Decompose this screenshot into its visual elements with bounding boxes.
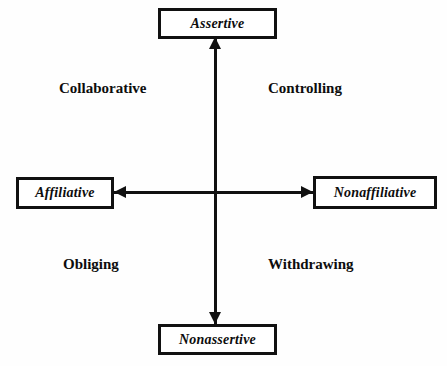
quadrant-label-bottom-right: Withdrawing — [268, 256, 354, 273]
node-nonassertive-label: Nonassertive — [179, 332, 256, 348]
diagram-canvas: Assertive Affiliative Nonaffiliative Non… — [0, 0, 447, 366]
horizontal-axis-line — [114, 191, 313, 194]
vertical-axis-line — [214, 38, 217, 325]
node-assertive: Assertive — [158, 8, 277, 39]
arrowhead-down-icon — [209, 312, 221, 324]
node-nonaffiliative: Nonaffiliative — [313, 176, 437, 209]
node-affiliative: Affiliative — [16, 177, 114, 209]
node-nonaffiliative-label: Nonaffiliative — [334, 185, 417, 201]
arrowhead-left-icon — [114, 186, 126, 198]
quadrant-label-bottom-left: Obliging — [63, 256, 119, 273]
quadrant-label-top-left: Collaborative — [59, 80, 147, 97]
quadrant-label-top-right: Controlling — [268, 80, 342, 97]
arrowhead-right-icon — [301, 186, 313, 198]
node-nonassertive: Nonassertive — [158, 324, 277, 355]
node-assertive-label: Assertive — [191, 16, 245, 32]
node-affiliative-label: Affiliative — [35, 185, 95, 201]
